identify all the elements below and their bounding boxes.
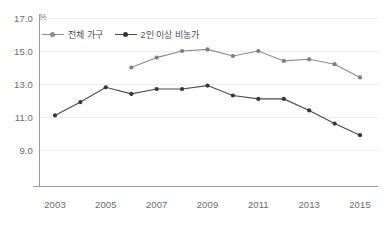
data-point-marker[interactable] bbox=[53, 113, 57, 117]
data-point-marker[interactable] bbox=[155, 87, 159, 91]
x-tick-label: 2005 bbox=[95, 199, 117, 210]
data-point-marker[interactable] bbox=[333, 62, 337, 66]
data-point-marker[interactable] bbox=[358, 75, 362, 79]
data-point-marker[interactable] bbox=[282, 59, 286, 63]
x-tick-label: 2009 bbox=[197, 199, 219, 210]
data-point-marker[interactable] bbox=[129, 65, 133, 69]
data-point-marker[interactable] bbox=[333, 122, 337, 126]
series-line bbox=[131, 49, 360, 77]
data-point-marker[interactable] bbox=[78, 100, 82, 104]
series-nonfarm-two-plus bbox=[53, 84, 362, 138]
data-point-marker[interactable] bbox=[155, 56, 159, 60]
data-point-marker[interactable] bbox=[129, 92, 133, 96]
data-point-marker[interactable] bbox=[104, 85, 108, 89]
data-point-marker[interactable] bbox=[358, 133, 362, 137]
data-series-layer bbox=[53, 47, 362, 137]
data-point-marker[interactable] bbox=[180, 49, 184, 53]
data-point-marker[interactable] bbox=[256, 49, 260, 53]
data-point-marker[interactable] bbox=[231, 93, 235, 97]
data-point-marker[interactable] bbox=[307, 57, 311, 61]
data-point-marker[interactable] bbox=[256, 97, 260, 101]
x-tick-label: 2011 bbox=[248, 199, 269, 210]
chart-container: 17.0 15.0 13.0 11.0 9.0 % 전체 가구 2인 이상 비농… bbox=[0, 0, 385, 233]
x-tick-label: 2013 bbox=[298, 199, 320, 210]
data-point-marker[interactable] bbox=[205, 47, 209, 51]
x-tick-label: 2015 bbox=[349, 199, 371, 210]
x-tick-label: 2003 bbox=[44, 199, 66, 210]
data-point-marker[interactable] bbox=[180, 87, 184, 91]
series-all-households bbox=[129, 47, 362, 79]
data-point-marker[interactable] bbox=[307, 108, 311, 112]
data-point-marker[interactable] bbox=[205, 84, 209, 88]
data-point-marker[interactable] bbox=[231, 54, 235, 58]
data-point-marker[interactable] bbox=[282, 97, 286, 101]
x-tick-label: 2007 bbox=[146, 199, 168, 210]
series-line bbox=[55, 86, 360, 136]
